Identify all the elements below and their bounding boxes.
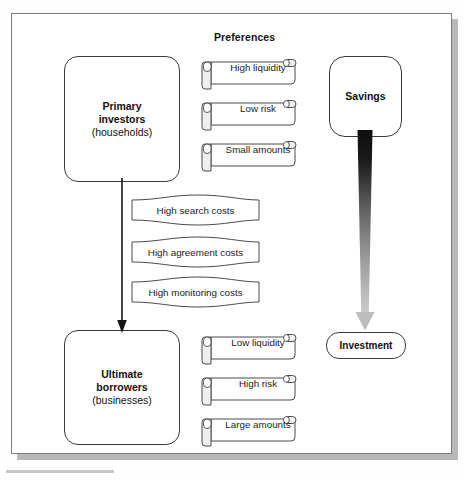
- scroll-shape: [198, 331, 299, 366]
- scroll-shape: [198, 138, 299, 173]
- scroll-shape: [198, 372, 299, 407]
- node-ultimate-borrowers-line3: (businesses): [92, 394, 152, 407]
- flag-label: High monitoring costs: [130, 274, 261, 310]
- node-savings[interactable]: Savings: [329, 56, 402, 137]
- node-savings-label: Savings: [345, 90, 385, 103]
- scroll-small-amounts[interactable]: Small amounts: [198, 138, 299, 173]
- scroll-large-amounts[interactable]: Large amounts: [198, 413, 299, 448]
- scroll-shape: [198, 56, 299, 91]
- node-primary-investors-line1: Primary: [102, 100, 141, 113]
- node-primary-investors-line3: (households): [92, 126, 153, 139]
- scroll-high-liquidity[interactable]: High liquidity: [198, 56, 299, 91]
- scroll-low-risk[interactable]: Low risk: [198, 97, 299, 132]
- node-ultimate-borrowers-line1: Ultimate: [101, 368, 142, 381]
- scroll-shape: [198, 97, 299, 132]
- scroll-high-risk[interactable]: High risk: [198, 372, 299, 407]
- flag-high-monitoring-costs[interactable]: High monitoring costs: [130, 274, 261, 310]
- node-ultimate-borrowers-line2: borrowers: [96, 381, 147, 394]
- node-primary-investors[interactable]: Primary investors (households): [64, 56, 180, 182]
- diagram-canvas: Preferences Primary investors (household…: [0, 0, 465, 480]
- preferences-heading: Preferences: [214, 31, 275, 43]
- scroll-low-liquidity[interactable]: Low liquidity: [198, 331, 299, 366]
- flag-high-search-costs[interactable]: High search costs: [130, 192, 261, 228]
- scroll-shape: [198, 413, 299, 448]
- node-ultimate-borrowers[interactable]: Ultimate borrowers (businesses): [64, 330, 180, 445]
- node-investment-label: Investment: [340, 339, 393, 352]
- flag-label: High agreement costs: [130, 234, 261, 270]
- savings-investment-arrow-icon: [338, 130, 394, 335]
- node-investment[interactable]: Investment: [326, 332, 406, 359]
- flag-label: High search costs: [130, 192, 261, 228]
- node-primary-investors-line2: investors: [99, 113, 146, 126]
- caption-rule: [6, 470, 114, 473]
- flag-high-agreement-costs[interactable]: High agreement costs: [130, 234, 261, 270]
